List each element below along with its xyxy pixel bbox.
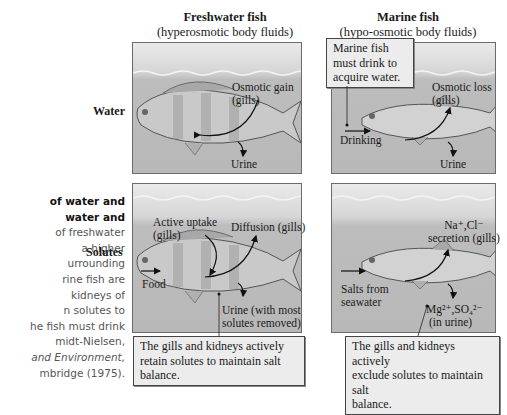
label-salts-line2: seawater [341, 296, 389, 309]
caption-line: and Environment, [31, 351, 125, 363]
marine-column-header: Marine fish (hypo-osmotic body fluids) [318, 10, 498, 40]
freshwater-title: Freshwater fish [140, 10, 310, 25]
label-osmotic-loss: Osmotic loss (gills) [432, 81, 492, 106]
callout-line: exclude solutes to maintain salt [352, 368, 493, 397]
caption-line: of freshwater [55, 226, 125, 238]
callout-marine-exclude: The gills and kidneys actively exclude s… [345, 336, 500, 415]
callout-line: The gills and kidneys actively [352, 339, 493, 368]
callout-line: balance. [352, 397, 493, 412]
label-mg-note: (in urine) [426, 316, 483, 329]
label-salts-line1: Salts from [341, 283, 389, 296]
caption-line: rine fish are [62, 273, 125, 285]
caption-line: he fish must drink [30, 320, 125, 332]
label-diffusion: Diffusion (gills) [231, 221, 305, 234]
label-active-uptake-line2: (gills) [153, 229, 217, 242]
label-active-uptake-line1: Active uptake [153, 216, 217, 229]
callout-line: must drink to [333, 56, 407, 71]
callout-line: balance. [140, 368, 298, 383]
caption-line: mbridge (1975). [39, 367, 125, 379]
label-active-uptake: Active uptake (gills) [153, 216, 217, 241]
callout-line: Marine fish [333, 41, 407, 56]
label-osmotic-gain-line1: Osmotic gain [232, 81, 294, 94]
callout-marine-drink: Marine fish must drink to acquire water. [326, 38, 414, 88]
label-secretion-ions: Na⁺,Cl⁻ [428, 219, 500, 232]
callout-line: acquire water. [333, 70, 407, 85]
callout-line: The gills and kidneys actively [140, 339, 298, 354]
label-mg-ions: Mg²⁺,SO₄²⁻ [426, 303, 483, 316]
callout-line: retain solutes to maintain salt [140, 354, 298, 369]
caption-line: of water and [50, 195, 125, 207]
marine-title: Marine fish [318, 10, 498, 25]
label-drinking: Drinking [340, 134, 382, 147]
label-food: Food [142, 278, 166, 291]
freshwater-column-header: Freshwater fish (hyperosmotic body fluid… [140, 10, 310, 40]
label-osmotic-gain-line2: (gills) [232, 94, 294, 107]
label-urine-solutes-line2: solutes removed) [222, 317, 301, 330]
label-urine-solutes-line1: Urine (with most [222, 304, 301, 317]
label-osmotic-loss-line1: Osmotic loss [432, 81, 492, 94]
figure-caption: of water and water and of freshwater a h… [0, 194, 125, 381]
perch-fish-icon [133, 43, 302, 174]
caption-line: midt-Nielsen, [55, 335, 125, 347]
label-urine-solutes: Urine (with most solutes removed) [222, 304, 301, 329]
label-na-cl-secretion: Na⁺,Cl⁻ secretion (gills) [428, 219, 500, 244]
callout-freshwater-retain: The gills and kidneys actively retain so… [133, 336, 305, 386]
label-urine: Urine [231, 158, 257, 171]
label-osmotic-loss-line2: (gills) [432, 94, 492, 107]
panel-freshwater-water [132, 42, 302, 174]
label-urine-marine: Urine [440, 158, 466, 171]
label-salts-from-seawater: Salts from seawater [341, 283, 389, 308]
row-label-water: Water [93, 104, 125, 119]
caption-line: kidneys of [71, 289, 125, 301]
caption-line: water and [65, 211, 125, 223]
freshwater-subtitle: (hyperosmotic body fluids) [140, 25, 310, 40]
caption-line: n solutes to [64, 304, 125, 316]
row-label-solutes: Solutes [86, 245, 123, 260]
label-mg-so4-urine: Mg²⁺,SO₄²⁻ (in urine) [426, 303, 483, 328]
label-osmotic-gain: Osmotic gain (gills) [232, 81, 294, 106]
label-secretion-text: secretion (gills) [428, 232, 500, 245]
